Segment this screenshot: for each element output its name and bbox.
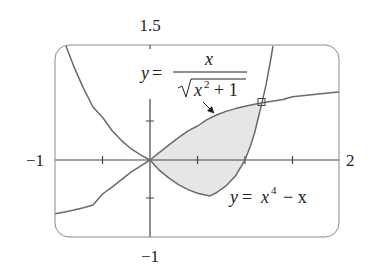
svg-text:x: x: [260, 187, 269, 207]
svg-text:x: x: [204, 49, 213, 69]
shaded-region: [150, 103, 262, 196]
svg-text:+ 1: + 1: [214, 80, 238, 100]
svg-text:4: 4: [271, 184, 277, 196]
svg-text:y: y: [139, 63, 149, 83]
annotation-arrow: [203, 102, 213, 112]
y-min-label: −1: [141, 247, 159, 266]
svg-text:=: =: [242, 187, 252, 207]
svg-text:− x: − x: [283, 187, 307, 207]
x-max-label: 2: [346, 151, 355, 170]
svg-text:2: 2: [204, 78, 210, 90]
svg-text:=: =: [152, 63, 162, 83]
x-min-label: −1: [26, 151, 44, 170]
curve2-equation-label: y = x 4 − x: [228, 184, 316, 209]
svg-text:y: y: [228, 187, 238, 207]
curve1-equation-label: y = x x 2 + 1: [136, 49, 251, 100]
chart-canvas: 1.5 −1 −1 2 y = x x 2 + 1 y = x 4 − x: [0, 0, 382, 275]
svg-text:x: x: [193, 80, 202, 100]
y-max-label: 1.5: [139, 16, 160, 35]
